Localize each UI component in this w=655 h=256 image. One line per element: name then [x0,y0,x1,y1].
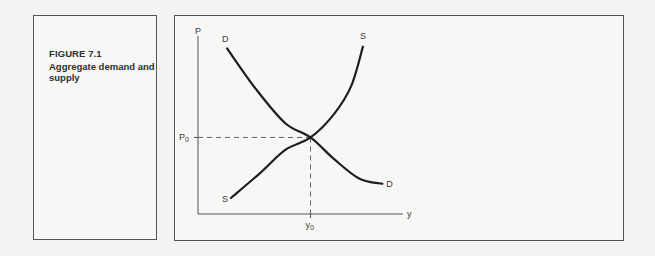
equilibrium-price-label: P0 [179,132,189,143]
curves: DDSS [222,31,393,204]
d-curve [227,48,382,183]
equilibrium-output-label: y0 [306,220,315,231]
x-axis-label: y [407,209,412,219]
s-curve-start-label: S [222,194,228,204]
y-axis-label: P [195,26,201,36]
s-curve [231,47,363,198]
axes: P y [195,26,412,219]
chart: P y P0 y0 DDSS [0,0,655,256]
d-curve-end-label: D [386,179,393,189]
equilibrium-guides: P0 y0 [179,132,314,231]
s-curve-end-label: S [360,31,366,41]
d-curve-start-label: D [222,34,229,44]
